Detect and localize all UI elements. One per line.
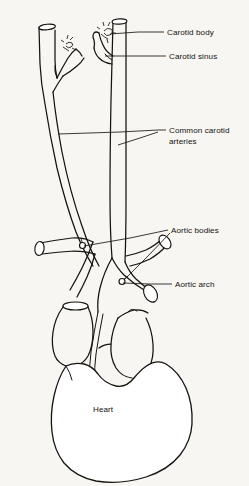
label-common-carotid-arteries-line2: arteries: [169, 137, 197, 146]
aortic-body-nodule-left: [80, 238, 86, 249]
brachiocephalic-trunk: [126, 233, 174, 266]
right-carotid-bifurcation: [93, 32, 113, 64]
superior-vena-cava: [52, 302, 93, 366]
left-common-carotid-artery: [39, 23, 99, 266]
leader-common-carotid-right: [118, 132, 158, 145]
leader-carotid-body: [110, 32, 164, 34]
right-common-carotid-artery: [110, 18, 127, 262]
left-carotid-body-nerve-plexus: [61, 35, 76, 51]
label-aortic-arch: Aortic arch: [175, 280, 215, 289]
leader-aortic-arch: [123, 283, 172, 284]
label-heart: Heart: [93, 405, 114, 414]
aortic-arch-vessel: [98, 258, 161, 312]
leader-aortic-bodies-right: [124, 233, 170, 280]
label-carotid-body: Carotid body: [167, 28, 215, 37]
left-carotid-bifurcation: [53, 49, 84, 92]
heart-outline: [51, 362, 192, 482]
label-aortic-bodies: Aortic bodies: [171, 226, 219, 235]
label-common-carotid-arteries-line1: Common carotid: [169, 126, 230, 135]
anatomical-diagram: Carotid body Carotid sinus Common caroti…: [0, 0, 249, 486]
label-carotid-sinus: Carotid sinus: [169, 52, 217, 61]
leader-common-carotid-left: [58, 130, 166, 134]
